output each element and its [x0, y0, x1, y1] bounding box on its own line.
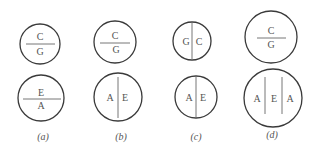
- panel-b: C G A E (b): [94, 21, 142, 143]
- label-upper: C: [268, 25, 275, 36]
- label-right: E: [200, 92, 206, 103]
- panel-d: C G A E A (d): [244, 11, 302, 141]
- panel-d-top-circle: C G: [245, 11, 297, 63]
- panel-a: C G E A (a): [18, 24, 64, 143]
- panel-d-caption: (d): [266, 129, 278, 141]
- panel-c-bottom-circle: A E: [175, 76, 217, 118]
- label-lower: G: [267, 39, 274, 50]
- panel-c-caption: (c): [190, 131, 202, 143]
- label-left: G: [182, 36, 189, 47]
- panel-b-bottom-circle: A E: [94, 73, 142, 121]
- label-upper: E: [38, 87, 44, 98]
- label-lower: A: [37, 100, 45, 111]
- label-lower: G: [112, 44, 119, 55]
- panel-c: G C A E (c): [173, 22, 217, 143]
- label-right: C: [196, 36, 203, 47]
- label-upper: C: [37, 31, 44, 42]
- panel-c-top-circle: G C: [173, 22, 211, 60]
- label-upper: C: [112, 30, 119, 41]
- panel-a-bottom-circle: E A: [18, 75, 64, 121]
- label-lower: G: [36, 46, 43, 57]
- label-middle: E: [271, 93, 277, 104]
- panel-a-caption: (a): [37, 131, 49, 143]
- label-left: A: [106, 92, 114, 103]
- label-left: A: [253, 93, 261, 104]
- panel-d-bottom-circle: A E A: [244, 69, 302, 127]
- cell-partition-diagram: C G E A (a) C G A E (b) G: [0, 0, 323, 157]
- label-left: A: [185, 92, 193, 103]
- panel-b-caption: (b): [115, 131, 127, 143]
- panel-a-top-circle: C G: [20, 24, 60, 64]
- label-right: E: [122, 92, 128, 103]
- panel-b-top-circle: C G: [94, 21, 136, 63]
- label-right: A: [286, 93, 294, 104]
